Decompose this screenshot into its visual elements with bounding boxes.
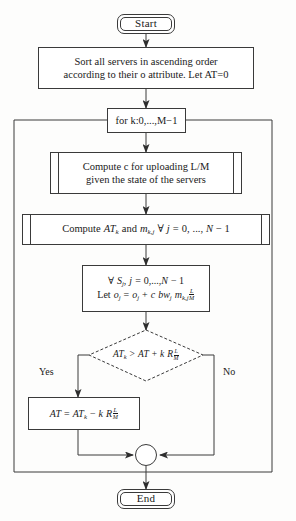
start-label: Start: [135, 17, 157, 31]
equals-symbol: =: [173, 223, 179, 234]
for-loop-header: for k:0,...,M−1: [107, 108, 186, 133]
yes-branch-label: Yes: [39, 366, 54, 377]
equals-line2: =: [124, 289, 130, 300]
assign-equals: =: [64, 407, 70, 418]
assign-fraction-denominator: M: [113, 413, 118, 420]
start-terminator: Start: [117, 14, 175, 34]
o2-subscript: j: [137, 294, 139, 301]
no-label-text: No: [223, 366, 235, 377]
compute-c-line-2: given the state of the servers: [86, 173, 206, 186]
assign-at-symbol: AT: [50, 407, 61, 418]
for-loop-label: for k:0,...,M−1: [116, 114, 178, 127]
update-o-process: ∀Sj,j=0,...,N− 1 Letoj=oj+cbwjmk,jLM: [82, 265, 210, 312]
edge-decision-yes: [78, 355, 89, 397]
assign-k: k: [99, 407, 103, 418]
ellipsis: ...,: [193, 223, 204, 234]
o-subscript: j: [119, 294, 121, 301]
no-branch-label: No: [223, 366, 235, 377]
let-word: Let: [97, 289, 110, 300]
minus-one: − 1: [216, 223, 230, 234]
sort-servers-line-1: Sort all servers in ascending order: [74, 55, 217, 68]
assign-at-k-symbol: AT: [73, 407, 84, 418]
yes-label-text: Yes: [39, 366, 54, 377]
end-label: End: [137, 492, 155, 506]
flowchart-canvas: Start Sort all servers in ascending orde…: [0, 0, 296, 521]
compute-at-and-m-predefined-process: ComputeATkandmk,j∀j=0,...,N− 1: [22, 214, 270, 245]
forall-symbol-line1: ∀: [108, 275, 114, 286]
minus-one-line1: − 1: [171, 275, 184, 286]
edge-assign-to-merge: [78, 430, 133, 455]
update-o-line-1: ∀Sj,j=0,...,N− 1: [108, 275, 184, 288]
compute-at-and-m-expression: ComputeATkandmk,j∀j=0,...,N− 1: [62, 222, 230, 237]
m-symbol: m: [140, 223, 148, 234]
ellipsis-line1: ...,: [151, 275, 161, 286]
forall-symbol: ∀: [157, 223, 163, 234]
compute-word: Compute: [62, 223, 101, 234]
assign-at-k-subscript: k: [84, 412, 87, 419]
assign-l-over-m-fraction: LM: [113, 407, 118, 420]
sort-servers-process: Sort all servers in ascending order acco…: [38, 47, 254, 89]
l-over-m-fraction: LM: [189, 288, 194, 301]
fraction-denominator: M: [189, 294, 194, 301]
m-subscript-line2: k,j: [182, 294, 189, 301]
and-word: and: [122, 223, 137, 234]
equals-line1: =: [135, 275, 141, 286]
j-symbol: j: [167, 223, 170, 234]
assign-at-expression: AT=ATk−kRLM: [50, 407, 119, 421]
j-symbol-line1: j: [129, 275, 132, 286]
compute-c-predefined-process: Compute c for uploading L/M given the st…: [50, 152, 242, 194]
merge-connector-circle: [136, 445, 157, 466]
end-terminator: End: [117, 489, 175, 509]
sort-servers-line-2: according to their o attribute. Let AT=0: [64, 68, 229, 81]
n-symbol-line1: N: [161, 275, 168, 286]
c-symbol: c: [151, 289, 155, 300]
compute-c-line-1: Compute c for uploading L/M: [83, 160, 210, 173]
n-symbol: N: [206, 223, 213, 234]
bw-subscript: j: [170, 294, 172, 301]
assign-r: R: [106, 407, 112, 418]
m-symbol-line2: m: [175, 289, 182, 300]
assign-at-process: AT=ATk−kRLM: [28, 397, 140, 430]
decision-diamond-shape: [89, 330, 203, 381]
assign-minus: −: [90, 407, 96, 418]
update-o-line-2: Letoj=oj+cbwjmk,jLM: [97, 288, 194, 302]
bw-symbol: bw: [158, 289, 170, 300]
at-k-subscript: k: [116, 228, 119, 236]
m-subscript: k,j: [148, 228, 155, 236]
zero-value: 0,: [182, 223, 190, 234]
comma-sep: ,: [124, 275, 127, 286]
plus-symbol: +: [142, 289, 148, 300]
at-k-symbol: AT: [104, 223, 116, 234]
